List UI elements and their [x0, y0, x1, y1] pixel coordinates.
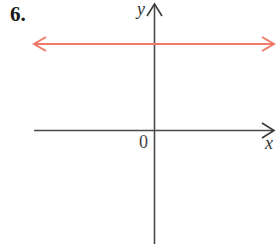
origin-label: 0 [139, 132, 148, 153]
graph-figure: 6. y x 0 [0, 0, 277, 244]
x-axis-label: x [265, 133, 273, 154]
y-axis-label: y [137, 0, 145, 20]
problem-number: 6. [10, 2, 26, 27]
coordinate-plane [0, 0, 277, 244]
